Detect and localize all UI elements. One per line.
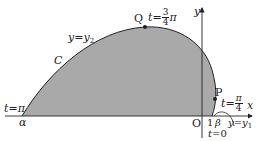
y1-eq: = [234,117,242,128]
p-t-fraction: π4 [235,94,243,113]
shaded-region [22,27,216,116]
beta-t-label: t=0 [208,129,227,139]
x-axis-label: x [247,100,253,111]
alpha-t-label: t=π [4,103,25,114]
q-label: Q [134,13,143,24]
origin-label: O [192,118,201,129]
parametric-area-diagram: x y O 1 C y=y2 y=y1 α t=π Q t=34π P t=π4… [0,0,256,141]
beta-label: β [215,118,221,128]
one-label: 1 [207,118,213,128]
q-t-label: t=34π [148,8,177,27]
alpha-label: α [19,117,26,128]
alpha-t-value: π [18,102,25,115]
curve-y1-label: y=y1 [228,118,252,130]
p-t-den: 4 [235,104,243,113]
curve-y2-label: y=y2 [68,32,94,45]
q-t-eq: = [152,11,161,24]
y2-sub: 2 [90,37,94,45]
y-axis-label: y [194,6,200,17]
p-t-eq: = [225,97,234,110]
curve-c-label: C [54,55,62,66]
point-q [143,25,147,29]
q-t-suffix: π [169,11,176,24]
y1-sub: 1 [248,122,252,130]
p-t-label: t=π4 [221,94,243,113]
alpha-t-eq: = [8,102,17,115]
beta-t-value: 0 [220,128,226,139]
